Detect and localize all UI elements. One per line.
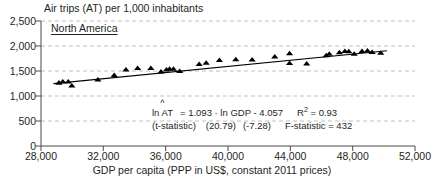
t-statistic-label: (t-statistic) (152, 119, 196, 132)
y-tick-text: 2,000 (0, 41, 36, 52)
chart-title: Air trips (AT) per 1,000 inhabitants (44, 3, 203, 14)
r-squared-value: = 0.93 (310, 107, 337, 118)
data-point-marker (122, 67, 129, 72)
data-point-marker (216, 57, 223, 62)
data-point-marker (286, 51, 293, 56)
y-tick-label-500: 500 (0, 116, 36, 127)
data-point-marker (147, 65, 154, 70)
x-tick-text: 28,000 (13, 150, 69, 162)
equation-rhs: = 1.093 · ln GDP - 4.057 (180, 106, 283, 119)
data-point-marker (364, 48, 371, 53)
x-axis-title: GDP per capita (PPP in US$, constant 201… (0, 164, 424, 176)
f-statistic: F-statistic = 432 (285, 119, 352, 132)
x-tick-label-32000: 32,000 (75, 150, 131, 162)
r-squared-label: R (297, 107, 304, 118)
data-point-marker (196, 61, 203, 66)
series-label: North America (51, 23, 118, 34)
x-tick-label-36000: 36,000 (138, 150, 194, 162)
data-point-marker (65, 79, 72, 84)
x-tick-text: 40,000 (200, 150, 256, 162)
y-tick-text: 500 (0, 116, 36, 127)
regression-annotation: ^ ln AT = 1.093 · ln GDP - 4.057 R2 = 0.… (152, 103, 352, 132)
data-point-marker (249, 57, 256, 62)
y-axis-ticks (36, 21, 41, 146)
data-point-marker (203, 60, 210, 65)
equation-lhs-with-hat: ^ ln AT (152, 106, 173, 119)
y-tick-label-1500: 1,500 (0, 66, 36, 77)
r-squared-exponent: 2 (304, 106, 308, 113)
y-tick-label-1000: 1,000 (0, 91, 36, 102)
x-tick-text: 48,000 (325, 150, 381, 162)
x-tick-label-52000: 52,000 (387, 150, 436, 162)
regression-tstat-row: (t-statistic) (20.79) (-7.28) F-statisti… (152, 119, 352, 132)
y-tick-label-2000: 2,000 (0, 41, 36, 52)
t-statistic-slope: (20.79) (206, 119, 236, 132)
x-tick-text: 52,000 (387, 150, 436, 162)
data-point-marker (303, 61, 310, 66)
data-point-marker (68, 83, 75, 88)
data-point-marker (271, 54, 278, 59)
y-tick-label-2500: 2,500 (0, 16, 36, 27)
regression-equation-row: ^ ln AT = 1.093 · ln GDP - 4.057 R2 = 0.… (152, 103, 352, 119)
data-point-marker (111, 72, 118, 77)
x-tick-text: 36,000 (138, 150, 194, 162)
x-tick-text: 44,000 (262, 150, 318, 162)
x-tick-label-40000: 40,000 (200, 150, 256, 162)
t-statistic-intercept: (-7.28) (243, 119, 271, 132)
hat-symbol: ^ (152, 100, 173, 106)
data-point-marker (336, 50, 343, 55)
data-point-marker (134, 65, 141, 70)
data-point-marker (232, 57, 239, 62)
x-tick-label-48000: 48,000 (325, 150, 381, 162)
r-squared-stat: R2 = 0.93 (297, 103, 337, 119)
x-tick-text: 32,000 (75, 150, 131, 162)
y-tick-text: 1,000 (0, 91, 36, 102)
y-tick-text: 2,500 (0, 16, 36, 27)
x-tick-label-28000: 28,000 (13, 150, 69, 162)
y-tick-text: 1,500 (0, 66, 36, 77)
trendline (53, 51, 386, 84)
equation-lhs: ln AT (152, 106, 173, 119)
x-tick-label-44000: 44,000 (262, 150, 318, 162)
